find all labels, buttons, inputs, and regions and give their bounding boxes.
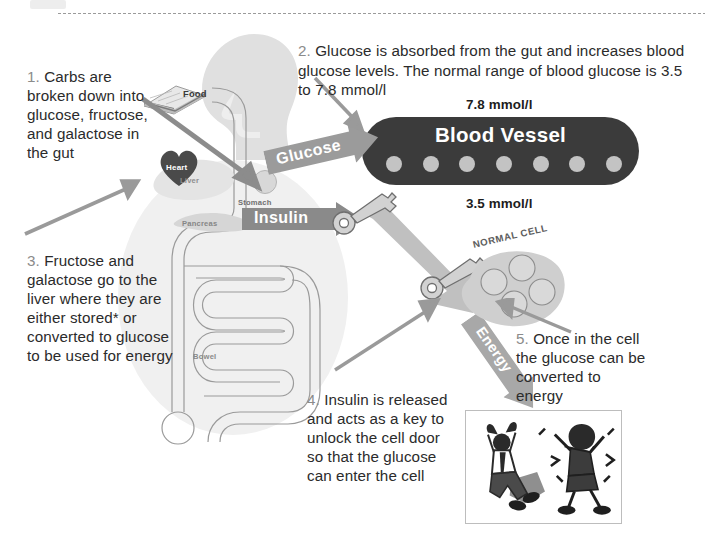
step-3-number: 3.: [27, 252, 40, 269]
step-5-text: 5. Once in the cell the glucose can be c…: [516, 310, 646, 405]
insulin-banner-label: Insulin: [254, 209, 308, 227]
step-1-body: Carbs are broken down into glucose, fruc…: [27, 68, 148, 161]
glucose-dot: [606, 156, 622, 172]
step-4-number: 4.: [307, 391, 320, 408]
step-1-number: 1.: [27, 68, 40, 85]
blood-vessel-title: Blood Vessel: [362, 123, 639, 147]
glucose-dot: [496, 156, 512, 172]
step-1-text: 1. Carbs are broken down into glucose, f…: [27, 48, 162, 162]
step-2-number: 2.: [298, 42, 311, 59]
step-4-body: Insulin is released and acts as a key to…: [307, 391, 448, 484]
step-2-body: Glucose is absorbed from the gut and inc…: [298, 42, 684, 98]
step-5-number: 5.: [516, 330, 529, 347]
step-3-body: Fructose and galactose go to the liver w…: [27, 252, 173, 364]
step-4-text: 4. Insulin is released and acts as a key…: [307, 371, 452, 485]
glucose-dot: [533, 156, 549, 172]
glucose-dot: [423, 156, 439, 172]
step-5-body: Once in the cell the glucose can be conv…: [516, 330, 645, 404]
glucose-dot: [459, 156, 475, 172]
glucose-dot: [386, 156, 402, 172]
bowel-label: Bowel: [193, 352, 216, 361]
step-2-text: 2. Glucose is absorbed from the gut and …: [298, 22, 696, 100]
top-smudge: [30, 0, 66, 9]
glucose-dot: [569, 156, 585, 172]
pointer-arrow-step3: [22, 178, 142, 238]
glucose-dots-row: [386, 155, 622, 173]
pancreas-label: Pancreas: [182, 219, 217, 228]
key-icon: [330, 190, 400, 235]
top-dotted-rule: [57, 12, 705, 15]
celebrating-people-photo: [465, 410, 622, 524]
step-3-text: 3. Fructose and galactose go to the live…: [27, 232, 177, 366]
pointer-arrow-step4: [332, 296, 442, 374]
blood-vessel: Blood Vessel: [362, 117, 639, 185]
diagram-canvas: Liver Heart Stomach Pancreas Bowel Food …: [0, 0, 705, 540]
